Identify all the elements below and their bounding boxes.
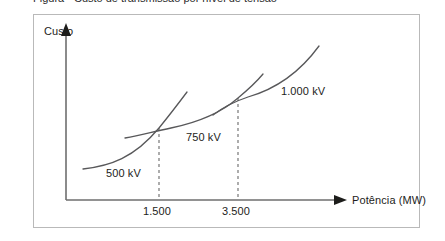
x-tick-label-1500: 1.500 bbox=[143, 205, 171, 217]
x-axis-label: Potência (MW) bbox=[352, 194, 426, 206]
curve-500kv bbox=[83, 92, 187, 169]
x-axis bbox=[66, 195, 347, 205]
y-axis bbox=[61, 23, 71, 200]
x-tick-label-3500: 3.500 bbox=[222, 205, 250, 217]
figure-container: Figura - Custo de transmissão por nível … bbox=[0, 0, 445, 241]
curve-label-1000kv: 1.000 kV bbox=[281, 85, 325, 97]
curve-label-500kv: 500 kV bbox=[106, 167, 141, 179]
curve-label-750kv: 750 kV bbox=[186, 131, 221, 143]
x-axis-arrow-icon bbox=[334, 195, 347, 205]
curve-750kv bbox=[125, 74, 263, 138]
curve-1000kv bbox=[213, 46, 319, 115]
y-axis-label: Custo bbox=[44, 25, 73, 37]
